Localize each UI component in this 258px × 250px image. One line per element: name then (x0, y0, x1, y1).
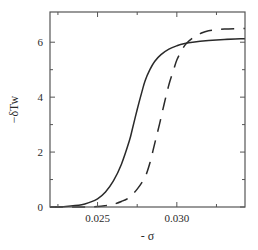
series-dashed-line (50, 28, 245, 207)
x-axis-label: - σ (141, 229, 155, 243)
plot-frame (50, 12, 245, 207)
y-tick-label: 0 (38, 201, 44, 213)
series-solid-line (50, 39, 245, 207)
y-axis: 0246 (38, 36, 246, 213)
y-tick-label: 4 (38, 91, 44, 103)
x-axis: 0.0250.030 (58, 12, 217, 224)
x-tick-label: 0.025 (85, 212, 110, 224)
y-tick-label: 6 (38, 36, 44, 48)
y-tick-label: 2 (38, 146, 44, 158)
y-axis-label: −δTw (7, 95, 21, 123)
x-tick-label: 0.030 (164, 212, 189, 224)
plot-area (50, 28, 245, 207)
chart: 0.0250.030 0246 - σ −δTw (0, 0, 258, 250)
